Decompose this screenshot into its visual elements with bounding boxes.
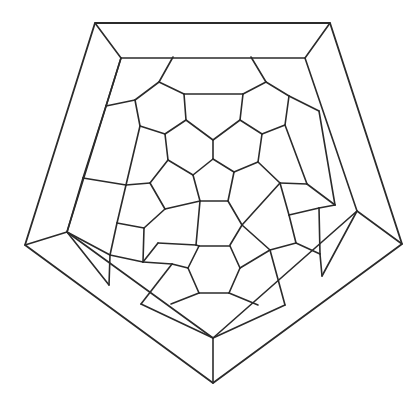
graph-edge xyxy=(319,208,320,254)
graph-edge xyxy=(143,228,144,262)
graph-edge xyxy=(280,183,307,184)
graph-edge xyxy=(109,255,110,285)
diagram-svg xyxy=(0,0,420,407)
outer-pentagon xyxy=(25,23,402,383)
fullerene-schlegel-diagram xyxy=(0,0,420,407)
